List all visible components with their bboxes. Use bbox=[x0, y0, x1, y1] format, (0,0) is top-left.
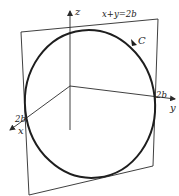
diagram-canvas: z x+y=2b C 2b y 2b x bbox=[0, 0, 179, 196]
curve-c bbox=[18, 24, 163, 185]
diagram-figure: z x+y=2b C 2b y 2b x bbox=[0, 0, 179, 196]
curve-label: C bbox=[138, 35, 146, 46]
z-axis-label: z bbox=[74, 6, 81, 17]
plane-label: x+y=2b bbox=[102, 9, 137, 19]
x-axis-label: x bbox=[18, 125, 24, 136]
x-intercept-label: 2b bbox=[14, 114, 26, 124]
curve-direction-arrow-icon bbox=[131, 39, 137, 46]
y-intercept-label: 2b bbox=[155, 90, 167, 100]
y-axis-label: y bbox=[169, 102, 176, 113]
